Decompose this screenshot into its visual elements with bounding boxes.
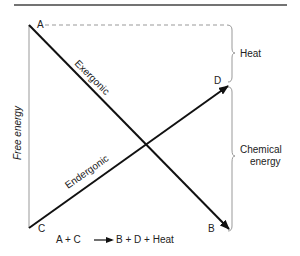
exergonic-label: Exergonic	[73, 58, 112, 97]
heat-bracket	[227, 25, 235, 82]
equation-rhs: B + D + Heat	[116, 234, 174, 245]
equation-arrowhead-icon	[106, 237, 114, 243]
equation-lhs: A + C	[56, 234, 81, 245]
point-d-label: D	[214, 75, 221, 86]
point-a-label: A	[37, 19, 44, 30]
free-energy-diagram: A D C B Exergonic Endergonic Free energy…	[0, 0, 300, 256]
free-energy-axis-label: Free energy	[12, 105, 23, 160]
chemical-label-line1: Chemical	[240, 144, 282, 155]
chemical-energy-bracket	[228, 87, 235, 231]
heat-label: Heat	[240, 48, 261, 59]
chemical-label-line2: energy	[250, 156, 281, 167]
exergonic-arrow	[29, 25, 229, 229]
endergonic-label: Endergonic	[63, 153, 111, 191]
endergonic-arrow	[29, 86, 228, 228]
point-b-label: B	[208, 223, 215, 234]
point-c-label: C	[38, 223, 45, 234]
